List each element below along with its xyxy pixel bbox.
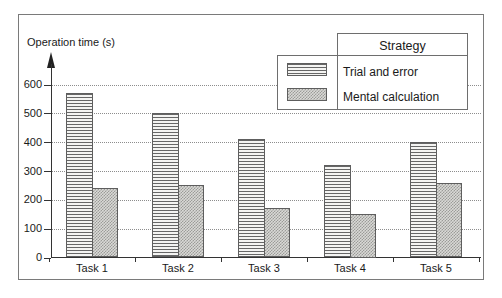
bar-mental-calculation-task-1	[92, 188, 118, 257]
bar-chart-figure: Operation time (s) 0100200300400500600 T…	[0, 0, 502, 298]
y-axis-line	[51, 64, 52, 258]
bar-mental-calculation-task-5	[436, 183, 462, 258]
legend-label-mental-calculation: Mental calculation	[343, 90, 439, 104]
y-tick-500	[44, 113, 51, 114]
bar-trial-and-error-task-1	[66, 93, 93, 257]
legend-label-trial-and-error: Trial and error	[343, 65, 418, 79]
bar-mental-calculation-task-2	[178, 185, 204, 257]
y-tick-400	[44, 142, 51, 143]
bar-mental-calculation-task-4	[350, 214, 376, 257]
bar-trial-and-error-task-3	[238, 139, 265, 257]
bar-trial-and-error-task-4	[324, 165, 351, 257]
x-axis-tick-1	[135, 258, 136, 262]
y-tick-200	[44, 200, 51, 201]
y-tick-label-300: 300	[10, 165, 42, 178]
x-axis-tick-5	[479, 258, 480, 262]
bar-trial-and-error-task-2	[152, 113, 179, 257]
x-category-label-task-2: Task 2	[143, 262, 213, 275]
y-tick-label-100: 100	[10, 222, 42, 235]
y-tick-label-600: 600	[10, 78, 42, 91]
x-axis-tick-2	[221, 258, 222, 262]
x-category-label-task-4: Task 4	[315, 262, 385, 275]
y-axis-title: Operation time (s)	[27, 36, 115, 49]
y-tick-300	[44, 171, 51, 172]
legend-title: Strategy	[338, 39, 467, 53]
y-tick-100	[44, 229, 51, 230]
y-tick-label-400: 400	[10, 136, 42, 149]
x-category-label-task-5: Task 5	[401, 262, 471, 275]
y-tick-600	[44, 85, 51, 86]
legend-swatch-trial-and-error	[287, 63, 327, 76]
legend-swatch-mental-calculation	[287, 88, 327, 101]
y-tick-label-200: 200	[10, 193, 42, 206]
legend-divider	[338, 55, 467, 56]
x-axis-tick-4	[393, 258, 394, 262]
bar-mental-calculation-task-3	[264, 208, 290, 257]
x-category-label-task-1: Task 1	[57, 262, 127, 275]
x-axis-tick-0	[49, 258, 50, 262]
y-tick-label-500: 500	[10, 107, 42, 120]
y-tick-label-0: 0	[10, 251, 42, 264]
bar-trial-and-error-task-5	[410, 142, 437, 257]
x-axis-tick-3	[307, 258, 308, 262]
x-category-label-task-3: Task 3	[229, 262, 299, 275]
gridline-500	[52, 113, 481, 114]
